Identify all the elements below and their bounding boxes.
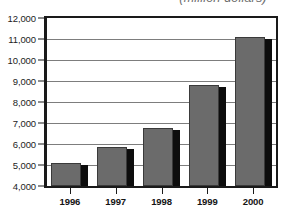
plot-area: [44, 16, 278, 188]
x-tick-label: 1997: [105, 196, 126, 207]
bar-1999: [189, 85, 226, 186]
bar-1997: [97, 147, 134, 186]
bars-layer: [47, 18, 276, 186]
bar-chart-figure: (million dollars) 4,0005,0006,0007,0008,…: [0, 0, 296, 222]
x-tick-label: 1996: [60, 196, 81, 207]
bar-face: [235, 37, 265, 186]
bar-face: [97, 147, 127, 186]
y-tick-label: 11,000: [8, 34, 36, 45]
bar-1996: [51, 163, 88, 186]
x-tick-mark: [162, 188, 163, 194]
bar-1998: [143, 128, 180, 186]
x-tick-mark: [253, 188, 254, 194]
x-tick-mark: [207, 188, 208, 194]
x-tick-label: 1998: [151, 196, 172, 207]
bar-shadow: [127, 149, 134, 186]
bar-2000: [235, 37, 272, 186]
x-tick-label: 1999: [197, 196, 218, 207]
bar-shadow: [219, 87, 226, 186]
x-tick-label: 2000: [243, 196, 264, 207]
chart-title: (million dollars): [150, 0, 296, 5]
y-tick-label: 8,000: [13, 97, 36, 108]
y-tick-label: 6,000: [13, 139, 36, 150]
x-axis: 19961997199819992000: [44, 188, 278, 218]
y-tick-label: 12,000: [8, 13, 36, 24]
y-tick-label: 9,000: [13, 76, 36, 87]
bar-face: [189, 85, 219, 186]
y-tick-label: 4,000: [13, 181, 36, 192]
bar-shadow: [173, 130, 180, 186]
x-tick-mark: [116, 188, 117, 194]
y-tick-label: 7,000: [13, 118, 36, 129]
y-tick-label: 10,000: [8, 55, 36, 66]
bar-face: [51, 163, 81, 186]
y-tick-label: 5,000: [13, 160, 36, 171]
bar-shadow: [265, 39, 272, 186]
x-tick-mark: [70, 188, 71, 194]
y-axis: 4,0005,0006,0007,0008,0009,00010,00011,0…: [0, 16, 44, 188]
bar-shadow: [81, 165, 88, 186]
bar-face: [143, 128, 173, 186]
